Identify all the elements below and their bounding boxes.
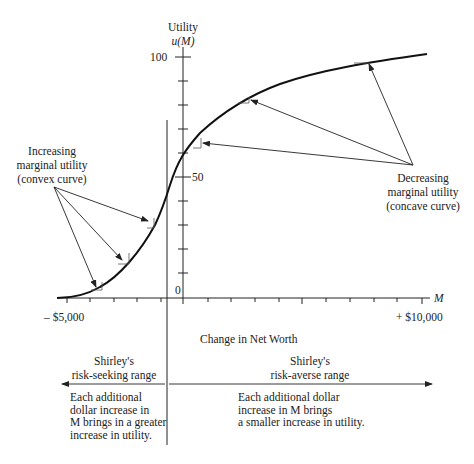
x-ticks: [67, 298, 422, 304]
avert-desc-line2: increase in M brings: [238, 404, 365, 417]
seek-desc-line4: increase in utility.: [70, 429, 166, 442]
convex-label-line3: (convex curve): [0, 172, 104, 186]
y-tick-50: 50: [192, 170, 204, 184]
risk-seeking-description: Each additional dollar increase in M bri…: [70, 391, 166, 441]
avert-desc-line1: Each additional dollar: [238, 391, 365, 404]
concave-arrows: [203, 64, 413, 165]
x-axis-title: Change in Net Worth: [200, 332, 298, 346]
risk-averse-description: Each additional dollar increase in M bri…: [238, 391, 365, 429]
y-axis-symbol: u(M): [150, 34, 216, 48]
seek-desc-line1: Each additional: [70, 391, 166, 404]
concave-label-line1: Decreasing: [372, 171, 474, 185]
risk-seeking-line1: Shirley's: [62, 354, 166, 368]
concave-label-line3: (concave curve): [372, 199, 474, 213]
seek-desc-line2: dollar increase in: [70, 404, 166, 417]
risk-seeking-label: Shirley's risk-seeking range: [62, 354, 166, 382]
x-tick-max: + $10,000: [396, 310, 443, 324]
convex-label-line2: marginal utility: [0, 158, 104, 172]
risk-averse-line1: Shirley's: [250, 354, 370, 368]
seek-desc-line3: M brings in a greater: [70, 416, 166, 429]
avert-desc-line3: a smaller increase in utility.: [238, 416, 365, 429]
convex-label: Increasing marginal utility (convex curv…: [0, 144, 104, 186]
concave-label: Decreasing marginal utility (concave cur…: [372, 171, 474, 213]
risk-averse-line2: risk-averse range: [250, 368, 370, 382]
convex-arrows: [54, 187, 148, 287]
risk-seeking-line2: risk-seeking range: [62, 368, 166, 382]
convex-label-line1: Increasing: [0, 144, 104, 158]
x-axis-symbol: M: [434, 291, 444, 305]
y-tick-0: 0: [175, 283, 181, 297]
slope-triangles: [91, 63, 369, 290]
x-tick-min: – $5,000: [44, 310, 84, 324]
risk-averse-label: Shirley's risk-averse range: [250, 354, 370, 382]
concave-label-line2: marginal utility: [372, 185, 474, 199]
y-tick-100: 100: [150, 50, 167, 64]
y-axis-title: Utility: [150, 20, 216, 34]
